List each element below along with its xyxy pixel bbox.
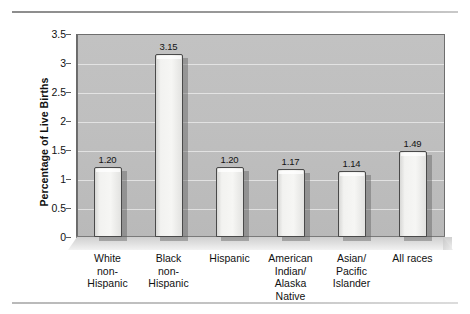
bar-top-highlight [218, 169, 242, 172]
bar-body: 1.20 [94, 167, 122, 237]
bar-top-highlight [96, 169, 120, 172]
bar: 1.49 [399, 34, 427, 237]
x-category-label: Asian/PacificIslander [321, 252, 382, 290]
figure-frame: Percentage of Live Births 3.532.521.510.… [0, 0, 470, 314]
top-divider-rule [12, 11, 458, 13]
y-tick-mark [66, 92, 71, 93]
x-category-label-line: All races [382, 252, 443, 265]
bar-top-highlight [340, 173, 364, 176]
bar-top-highlight [279, 171, 303, 174]
x-category-label: Whitenon-Hispanic [77, 252, 138, 290]
bar: 1.20 [216, 34, 244, 237]
bar-body: 1.49 [399, 151, 427, 237]
bar-value-label: 1.17 [281, 156, 299, 167]
bar-body: 1.20 [216, 167, 244, 237]
x-category-label-line: Hispanic [199, 252, 260, 265]
x-category-label: All races [382, 252, 443, 265]
x-category-label-line: Islander [321, 277, 382, 290]
x-category-label-line: Hispanic [77, 277, 138, 290]
y-tick-mark [66, 208, 71, 209]
x-category-label-line: Hispanic [138, 277, 199, 290]
bar-series: 1.203.151.201.171.141.49 [77, 34, 443, 237]
x-axis-category-labels: Whitenon-HispanicBlacknon-HispanicHispan… [77, 252, 443, 308]
y-tick-mark [66, 121, 71, 122]
x-category-label: Hispanic [199, 252, 260, 265]
x-category-label-line: Asian/ [321, 252, 382, 265]
bar-value-label: 1.14 [342, 158, 360, 169]
x-category-label-line: White [77, 252, 138, 265]
x-category-label: AmericanIndian/AlaskaNative [260, 252, 321, 302]
y-tick-mark [66, 34, 71, 35]
bar-body: 1.14 [338, 171, 366, 237]
bar-top-highlight [401, 153, 425, 156]
bar-body: 1.17 [277, 169, 305, 237]
y-tick-label: 1.5 [51, 144, 66, 156]
y-tick-label: 0.5 [51, 202, 66, 214]
y-tick-label: 3.5 [51, 28, 66, 40]
x-category-label-line: Alaska [260, 277, 321, 290]
bar-top-highlight [157, 56, 181, 59]
y-tick-label: 2.5 [51, 86, 66, 98]
y-tick-mark [66, 237, 71, 238]
x-category-label-line: non- [77, 265, 138, 278]
x-category-label-line: Native [260, 290, 321, 303]
bar-value-label: 1.20 [220, 154, 238, 165]
bar-value-label: 1.49 [403, 138, 421, 149]
x-category-label-line: non- [138, 265, 199, 278]
y-axis-tick-labels: 3.532.521.510.50 [36, 28, 70, 244]
bar: 1.20 [94, 34, 122, 237]
y-tick-mark [66, 63, 71, 64]
bar-value-label: 3.15 [159, 41, 177, 52]
bar: 1.14 [338, 34, 366, 237]
bar: 3.15 [155, 34, 183, 237]
bar: 1.17 [277, 34, 305, 237]
x-category-label-line: American [260, 252, 321, 265]
y-tick-mark [66, 150, 71, 151]
x-category-label-line: Pacific [321, 265, 382, 278]
x-category-label: Blacknon-Hispanic [138, 252, 199, 290]
bar-body: 3.15 [155, 54, 183, 237]
x-category-label-line: Black [138, 252, 199, 265]
bar-value-label: 1.20 [98, 154, 116, 165]
x-category-label-line: Indian/ [260, 265, 321, 278]
y-tick-mark [66, 179, 71, 180]
